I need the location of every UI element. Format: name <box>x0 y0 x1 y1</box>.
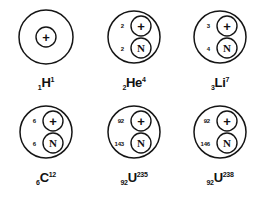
element-symbol: C <box>40 170 49 185</box>
neutron-glyph: N <box>47 138 59 149</box>
atom-diagram-carbon-12: + N 6 6 6C12 <box>2 99 90 197</box>
element-symbol: He <box>126 75 142 90</box>
proton-glyph: + <box>135 20 147 33</box>
neutron-count-label: 146 <box>190 141 210 147</box>
neutron-glyph: N <box>135 138 147 149</box>
mass-number: 12 <box>49 171 56 178</box>
nucleus-shell-wrap: + N 92 146 <box>176 99 264 169</box>
proton-count-label: 6 <box>20 118 36 124</box>
isotope-label-helium-4: 2He4 <box>90 74 178 91</box>
atomic-structure-figure: + 1H1 + N 2 2 2He4 <box>0 0 265 197</box>
outer-shell-circle <box>90 99 178 169</box>
neutron-glyph: N <box>221 43 233 54</box>
element-symbol: Li <box>215 75 226 90</box>
isotope-label-carbon-12: 6C12 <box>2 169 90 186</box>
outer-shell-circle <box>176 99 264 169</box>
neutron-count-label: 4 <box>194 46 210 52</box>
atomic-number: 92 <box>120 179 127 186</box>
proton-glyph: + <box>135 115 147 128</box>
neutron-glyph: N <box>135 43 147 54</box>
isotope-label-hydrogen-1: 1H1 <box>2 74 90 91</box>
mass-number: 1 <box>51 76 55 83</box>
nucleus-shell-wrap: + N 2 2 <box>90 4 178 74</box>
atom-diagram-hydrogen-1: + 1H1 <box>2 4 90 102</box>
proton-count-label: 92 <box>106 118 124 124</box>
outer-shell-circle <box>90 4 178 74</box>
nucleus-shell-wrap: + N 92 143 <box>90 99 178 169</box>
mass-number: 7 <box>225 76 229 83</box>
isotope-label-lithium-7: 3Li7 <box>176 74 264 91</box>
isotope-label-uranium-235: 92U235 <box>90 169 178 186</box>
element-symbol: H <box>41 75 50 90</box>
mass-number: 238 <box>223 171 234 178</box>
nucleus-shell-wrap: + N 3 4 <box>176 4 264 74</box>
neutron-count-label: 6 <box>20 141 36 147</box>
atom-diagram-lithium-7: + N 3 4 3Li7 <box>176 4 264 102</box>
neutron-count-label: 143 <box>104 141 124 147</box>
mass-number: 235 <box>137 171 148 178</box>
atom-diagram-uranium-235: + N 92 143 92U235 <box>90 99 178 197</box>
mass-number: 4 <box>142 76 146 83</box>
outer-shell-circle <box>176 4 264 74</box>
proton-count-label: 92 <box>192 118 210 124</box>
nucleus-shell-wrap: + N 6 6 <box>2 99 90 169</box>
atom-diagram-uranium-238: + N 92 146 92U238 <box>176 99 264 197</box>
atomic-number: 92 <box>206 179 213 186</box>
proton-glyph: + <box>221 20 233 33</box>
nucleus-shell-wrap: + <box>2 4 90 74</box>
neutron-glyph: N <box>221 138 233 149</box>
element-symbol: U <box>214 170 223 185</box>
neutron-count-label: 2 <box>108 46 124 52</box>
proton-count-label: 3 <box>194 23 210 29</box>
isotope-label-uranium-238: 92U238 <box>176 169 264 186</box>
proton-glyph: + <box>40 31 52 44</box>
atom-diagram-helium-4: + N 2 2 2He4 <box>90 4 178 102</box>
element-symbol: U <box>128 170 137 185</box>
proton-glyph: + <box>221 115 233 128</box>
proton-count-label: 2 <box>108 23 124 29</box>
outer-shell-circle <box>2 99 90 169</box>
proton-glyph: + <box>47 115 59 128</box>
